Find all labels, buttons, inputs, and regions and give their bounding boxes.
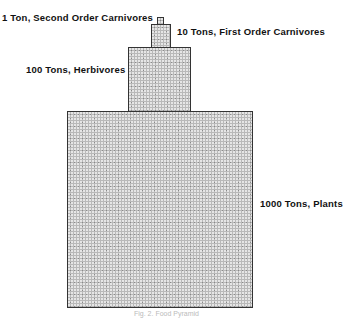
level-herbivores-block: [128, 47, 191, 112]
label-herbivores: 100 Tons, Herbivores: [26, 64, 125, 75]
figure-caption: Fig. 2. Food Pyramid: [134, 310, 199, 317]
level-first-order-carnivores-block: [151, 24, 171, 48]
label-first-order-carnivores: 10 Tons, First Order Carnivores: [177, 26, 325, 37]
label-second-order-carnivores: 1 Ton, Second Order Carnivores: [2, 12, 153, 23]
label-plants: 1000 Tons, Plants: [260, 198, 343, 209]
level-plants-block: [67, 111, 253, 308]
